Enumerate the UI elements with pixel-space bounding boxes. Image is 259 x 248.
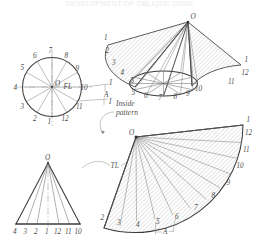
plan-mark-I2: I: [108, 98, 112, 106]
plan-label-10: 10: [81, 84, 89, 92]
plan-label-2: 2: [33, 115, 37, 123]
pattern-label-6: 6: [175, 213, 179, 221]
inside-pattern-line1: Inside: [115, 99, 135, 108]
pattern-label-10: 10: [237, 162, 245, 170]
plan-fl-label: FL: [63, 83, 72, 91]
pattern-label-11: 11: [243, 146, 250, 154]
tl-arc-left: [82, 161, 110, 168]
cone-label-base-6: 6: [144, 92, 148, 100]
drawing-svg: DEVELOPMENT OF OBLIQUE CONE 7 6 8: [0, 0, 259, 248]
inside-pattern-line2: pattern: [115, 108, 138, 117]
plan-label-11: 11: [76, 103, 83, 111]
cone-label-right-12: 12: [242, 69, 250, 77]
tl-base-label-1: 1: [45, 228, 49, 236]
tl-apex-point: [47, 162, 49, 164]
plan-label-5: 5: [21, 64, 25, 72]
cone-label-base-5: 5: [132, 89, 136, 97]
tl-base-label-10: 10: [75, 228, 83, 236]
pattern-label-3: 3: [116, 219, 121, 227]
tl-apex-label-O: O: [45, 154, 51, 162]
plan-label-4: 4: [14, 84, 18, 92]
plan-center-point: [51, 86, 53, 88]
inside-pattern-arrow: [100, 112, 114, 134]
inside-pattern-arrowhead: [101, 131, 105, 134]
plan-view-circle: 7 6 8 5 9 4 10 3 11 2 1 12 O FL: [14, 47, 93, 127]
cone-apex-label-O: O: [191, 13, 197, 21]
cone-label-left-4: 4: [121, 69, 125, 77]
pattern-label-1: 1: [247, 116, 251, 124]
drawing-canvas: DEVELOPMENT OF OBLIQUE CONE 7 6 8: [0, 0, 259, 248]
plan-label-8: 8: [65, 52, 69, 60]
cone-label-base-7: 7: [159, 94, 163, 102]
drawing-title: DEVELOPMENT OF OBLIQUE CONE: [66, 0, 194, 8]
flat-pattern-development: O 1 12 11 10 9 8 7 6 5 4 3 2 A: [101, 116, 253, 236]
plan-label-7: 7: [49, 47, 53, 55]
cone-apex-point: [187, 21, 189, 23]
cone-right-lobe: [188, 22, 241, 86]
cone-left-lobe: [105, 22, 188, 87]
plan-apex-label-O: O: [55, 80, 61, 88]
pattern-label-9: 9: [227, 179, 231, 187]
pattern-label-8: 8: [212, 192, 216, 200]
cone-label-left-2: 2: [106, 47, 110, 55]
pattern-dimension-A-label: A: [162, 228, 168, 236]
pattern-apex-point: [135, 136, 138, 139]
plan-mark-I: I: [109, 79, 113, 87]
cone-label-left-3: 3: [111, 59, 116, 67]
cone-label-base-10: 10: [195, 85, 203, 93]
plan-leader-group: I A I: [78, 79, 113, 107]
pattern-sector-outline: [104, 125, 243, 233]
plan-label-3: 3: [20, 103, 25, 111]
cone-label-right-11: 11: [228, 78, 235, 86]
tl-label: TL: [111, 161, 119, 170]
pattern-label-2: 2: [101, 214, 105, 222]
pattern-label-12: 12: [245, 129, 253, 137]
tl-base-label-11: 11: [65, 228, 72, 236]
tl-base-label-2: 2: [34, 228, 38, 236]
pattern-label-7: 7: [194, 204, 198, 212]
cone-label-right-1: 1: [245, 56, 249, 64]
pattern-label-5: 5: [156, 218, 160, 226]
pattern-apex-label-O: O: [129, 129, 135, 137]
pattern-label-4: 4: [136, 221, 140, 229]
tl-base-label-12: 12: [54, 228, 62, 236]
cone-label-base-8: 8: [174, 93, 178, 101]
plan-label-9: 9: [76, 65, 80, 73]
cone-label-left-1: 1: [104, 34, 108, 42]
plan-label-6: 6: [33, 52, 37, 60]
leader-lower: [78, 99, 108, 101]
tl-base-label-4: 4: [13, 228, 17, 236]
true-length-diagram: O 4 3 2 1 12 11 10: [13, 154, 82, 236]
plan-label-12: 12: [62, 115, 70, 123]
plan-label-1: 1: [48, 118, 52, 126]
cone-label-base-9: 9: [186, 90, 190, 98]
tl-base-label-3: 3: [23, 228, 28, 236]
cone-label-left-5: 5: [131, 77, 135, 85]
pictorial-cone-view: O 1 2 3 4 5 5 6 7 8 9 10 1 12 11: [104, 13, 249, 102]
